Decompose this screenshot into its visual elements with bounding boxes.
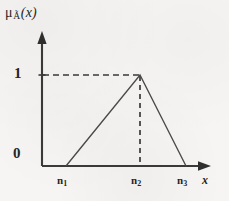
y-axis-label-mu: μ	[5, 5, 13, 20]
x-axis-arrowhead	[198, 161, 211, 171]
x-tick-label-n2: n2	[131, 175, 141, 188]
plot-area	[0, 0, 229, 201]
x-tick-sub-n2: 2	[137, 179, 141, 188]
y-tick-label-1: 1	[14, 66, 22, 81]
y-axis-label-subscript: Ã	[13, 11, 21, 21]
x-axis-label: x	[202, 174, 208, 186]
x-tick-label-n3: n3	[177, 175, 187, 188]
fuzzy-membership-figure: μÃ(x) 1 0 n1 n2 n3 x	[0, 0, 229, 201]
x-tick-sub-n3: 3	[183, 179, 187, 188]
x-tick-label-n1: n1	[57, 175, 67, 188]
y-tick-label-0: 0	[13, 146, 21, 161]
y-axis-label-arg: (x)	[21, 5, 37, 20]
x-tick-sub-n1: 1	[63, 179, 67, 188]
y-axis-label: μÃ(x)	[5, 6, 37, 22]
membership-function-curve	[66, 75, 186, 166]
y-axis-arrowhead	[37, 31, 46, 44]
